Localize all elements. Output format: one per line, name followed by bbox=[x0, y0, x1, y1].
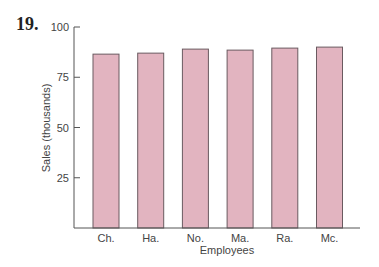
y-tick-label: 50 bbox=[57, 122, 69, 134]
y-axis-label: Sales (thousands) bbox=[40, 84, 52, 173]
y-tick-label: 100 bbox=[51, 21, 69, 33]
bar bbox=[227, 50, 253, 228]
x-tick-label: Ra. bbox=[276, 232, 293, 244]
y-axis: 255075100 bbox=[51, 21, 80, 228]
bar bbox=[138, 53, 164, 228]
x-tick-label: Mc. bbox=[321, 232, 339, 244]
bar bbox=[93, 54, 119, 228]
x-tick-label: No. bbox=[187, 232, 204, 244]
bar bbox=[272, 48, 298, 228]
y-tick-label: 25 bbox=[57, 172, 69, 184]
x-tick-label: Ch. bbox=[97, 232, 114, 244]
x-tick-label: Ha. bbox=[142, 232, 159, 244]
bars bbox=[93, 47, 343, 228]
x-axis-label: Employees bbox=[200, 244, 255, 256]
x-tick-label: Ma. bbox=[231, 232, 249, 244]
bar bbox=[182, 49, 208, 228]
y-tick-label: 75 bbox=[57, 71, 69, 83]
x-axis: Ch.Ha.No.Ma.Ra.Mc. bbox=[74, 228, 360, 244]
bar bbox=[317, 47, 343, 228]
bar-chart: 255075100 Ch.Ha.No.Ma.Ra.Mc. Sales (thou… bbox=[0, 0, 379, 267]
